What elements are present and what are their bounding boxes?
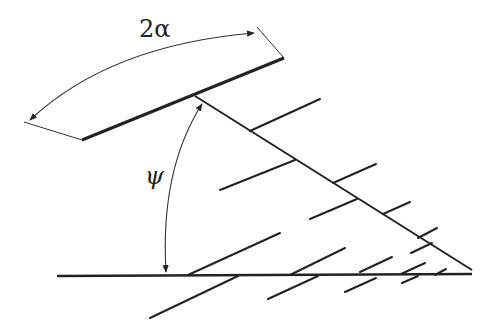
hatch-lines [150,99,446,318]
base-line [57,274,472,276]
label-2alpha: 2α [139,17,170,41]
label-psi: ψ [145,164,164,188]
extension-line-left [24,122,82,140]
diagram-svg [0,0,496,323]
angle-psi-arc [165,104,202,272]
angle-2alpha-arc [30,33,254,120]
diagram-canvas: 2α ψ [0,0,496,323]
blade-line [82,58,284,140]
extension-line-right [257,27,284,58]
